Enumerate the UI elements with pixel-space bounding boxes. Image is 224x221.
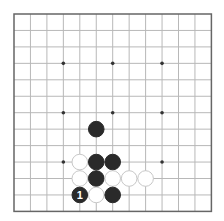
star-point: [62, 160, 66, 164]
star-point: [160, 62, 164, 66]
star-point: [111, 111, 115, 115]
white-stone: [105, 171, 121, 187]
black-stone: [105, 187, 121, 203]
star-point: [62, 62, 66, 66]
black-stone: [88, 171, 104, 187]
white-stone: [72, 171, 88, 187]
star-point: [160, 111, 164, 115]
white-stone: [121, 171, 137, 187]
white-stone: [72, 154, 88, 170]
star-point: [160, 160, 164, 164]
star-point: [111, 62, 115, 66]
black-stone: [88, 121, 104, 137]
star-point: [62, 111, 66, 115]
go-board: 1: [0, 0, 224, 221]
black-stone: [88, 154, 104, 170]
black-stone: [105, 154, 121, 170]
white-stone: [138, 171, 154, 187]
move-number-label: 1: [77, 189, 83, 201]
white-stone: [88, 187, 104, 203]
